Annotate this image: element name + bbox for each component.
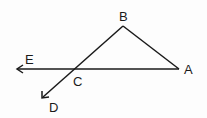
geometry-diagram: B A E C D bbox=[0, 0, 207, 118]
label-b: B bbox=[119, 9, 128, 24]
ray-bd bbox=[43, 26, 123, 97]
label-c: C bbox=[73, 74, 82, 89]
label-a: A bbox=[184, 62, 193, 77]
diagram-svg: B A E C D bbox=[0, 0, 207, 118]
label-d: D bbox=[49, 100, 58, 115]
label-e: E bbox=[25, 52, 34, 67]
segment-ba bbox=[123, 26, 179, 69]
